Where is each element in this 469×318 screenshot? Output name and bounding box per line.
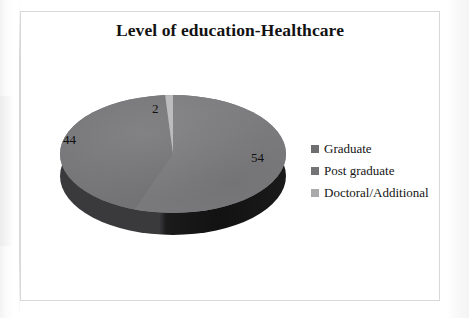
- legend-item-post-graduate[interactable]: Post graduate: [311, 163, 441, 178]
- legend-item-doctoral-additional[interactable]: Doctoral/Additional: [311, 185, 441, 200]
- legend-label-graduate: Graduate: [324, 142, 372, 156]
- legend-label-post-graduate: Post graduate: [324, 164, 394, 178]
- legend-item-graduate[interactable]: Graduate: [311, 141, 441, 156]
- scan-artifact-shadow-right: [447, 0, 469, 318]
- data-label-graduate: 54: [251, 150, 264, 166]
- legend-swatch-icon: [311, 189, 319, 197]
- legend-label-doctoral-additional: Doctoral/Additional: [324, 186, 429, 200]
- data-label-post-graduate: 44: [63, 132, 76, 148]
- chart-screenshot: Level of education-Healthcare 2 44 54 Gr…: [0, 0, 469, 318]
- legend-swatch-icon: [311, 145, 319, 153]
- data-label-doctoral-additional: 2: [152, 101, 159, 117]
- chart-title: Level of education-Healthcare: [20, 20, 440, 41]
- scan-artifact-shadow-left: [0, 96, 14, 246]
- chart-legend: Graduate Post graduate Doctoral/Addition…: [311, 141, 441, 207]
- legend-swatch-icon: [311, 167, 319, 175]
